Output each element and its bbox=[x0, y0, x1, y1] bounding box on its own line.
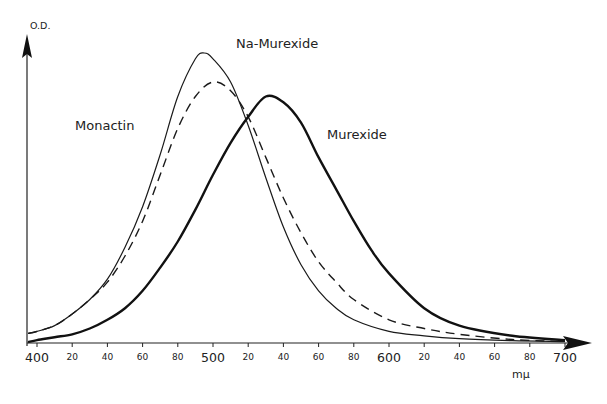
x-tick-label: 60 bbox=[137, 352, 148, 362]
label-murexide: Murexide bbox=[327, 127, 387, 142]
x-tick-label: 700 bbox=[553, 350, 577, 365]
x-tick-label: 60 bbox=[313, 352, 324, 362]
x-tick-label: 600 bbox=[377, 350, 401, 365]
x-tick-label: 20 bbox=[242, 352, 253, 362]
x-tick-label: 40 bbox=[278, 352, 289, 362]
x-tick-label: 80 bbox=[524, 352, 535, 362]
x-tick-label: 20 bbox=[418, 352, 429, 362]
x-tick-label: 80 bbox=[348, 352, 359, 362]
absorption-spectrum-chart: O.D. mμ Monactin Na-Murexide Murexide 40… bbox=[0, 0, 607, 404]
x-tick-label: 40 bbox=[102, 352, 113, 362]
label-na-murexide: Na-Murexide bbox=[236, 36, 318, 51]
x-tick-label: 500 bbox=[201, 350, 225, 365]
x-tick-label: 80 bbox=[172, 352, 183, 362]
plot-area bbox=[0, 0, 607, 404]
label-monactin: Monactin bbox=[75, 118, 134, 133]
x-tick-label: 400 bbox=[25, 350, 49, 365]
x-axis-unit: mμ bbox=[512, 368, 530, 381]
x-tick-label: 40 bbox=[454, 352, 465, 362]
x-tick-label: 60 bbox=[489, 352, 500, 362]
curve-monactin bbox=[28, 53, 565, 342]
x-tick-label: 20 bbox=[66, 352, 77, 362]
y-axis-title: O.D. bbox=[30, 20, 50, 31]
